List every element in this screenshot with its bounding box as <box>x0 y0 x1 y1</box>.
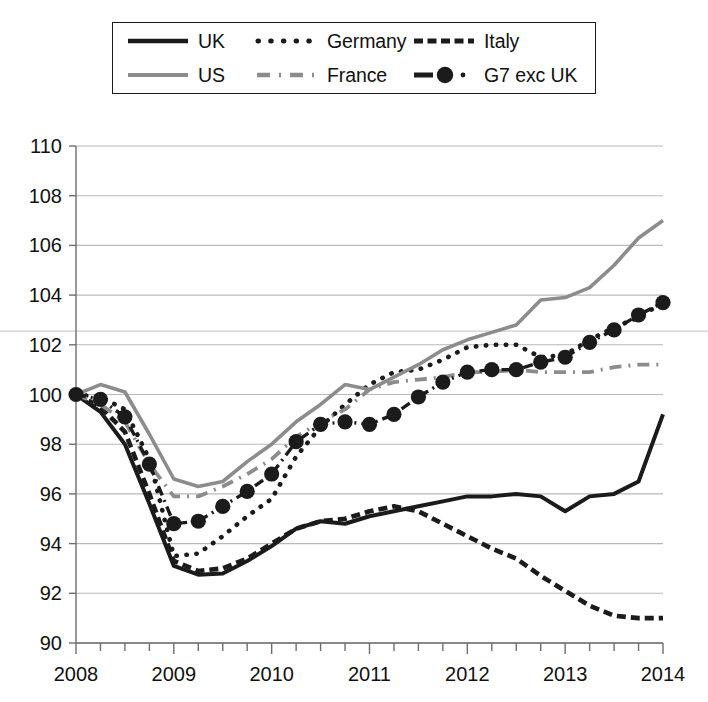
x-tick-label: 2008 <box>54 663 99 685</box>
series-marker <box>606 322 621 337</box>
y-tick-label: 90 <box>40 632 62 654</box>
series-marker <box>142 456 157 471</box>
series-marker <box>460 365 475 380</box>
series-marker <box>582 335 597 350</box>
plot-svg: 9092949698100102104106108110 20082009201… <box>0 0 708 702</box>
series-marker <box>411 389 426 404</box>
x-tick-label: 2014 <box>641 663 686 685</box>
data-series <box>68 221 670 619</box>
series-marker <box>264 466 279 481</box>
y-tick-label: 92 <box>40 582 62 604</box>
series-marker <box>655 295 670 310</box>
x-tick-label: 2013 <box>543 663 588 685</box>
plot-area: 9092949698100102104106108110 20082009201… <box>0 0 708 702</box>
series-marker <box>289 434 304 449</box>
series-line-us <box>76 221 663 487</box>
y-tick-label: 96 <box>40 483 62 505</box>
series-marker <box>166 516 181 531</box>
x-tick-label: 2010 <box>249 663 294 685</box>
x-tick-label: 2012 <box>445 663 490 685</box>
x-tick-label: 2009 <box>152 663 197 685</box>
y-tick-label: 94 <box>40 533 62 555</box>
y-tick-label: 108 <box>29 185 62 207</box>
series-marker <box>117 409 132 424</box>
series-marker <box>484 362 499 377</box>
series-line-g7-exc-uk <box>76 303 663 524</box>
x-tick-labels: 2008200920102011201220132014 <box>54 663 686 685</box>
y-tick-label: 104 <box>29 284 62 306</box>
chart-root: UK Germany Italy US France G7 exc U <box>0 0 708 702</box>
series-marker <box>93 392 108 407</box>
y-tick-label: 106 <box>29 234 62 256</box>
x-tick-label: 2011 <box>348 663 391 685</box>
y-tick-label: 102 <box>29 334 62 356</box>
series-marker <box>313 417 328 432</box>
y-tick-label: 110 <box>30 135 62 157</box>
axes <box>69 146 663 654</box>
series-marker <box>191 514 206 529</box>
y-tick-labels: 9092949698100102104106108110 <box>29 135 62 654</box>
series-marker <box>435 374 450 389</box>
series-marker <box>68 387 83 402</box>
series-marker <box>533 355 548 370</box>
y-tick-label: 100 <box>29 384 62 406</box>
y-tick-label: 98 <box>40 433 62 455</box>
series-marker <box>337 414 352 429</box>
series-marker <box>215 499 230 514</box>
series-marker <box>240 484 255 499</box>
series-marker <box>386 407 401 422</box>
series-marker <box>509 362 524 377</box>
series-marker <box>631 307 646 322</box>
series-marker <box>362 417 377 432</box>
series-marker <box>558 350 573 365</box>
